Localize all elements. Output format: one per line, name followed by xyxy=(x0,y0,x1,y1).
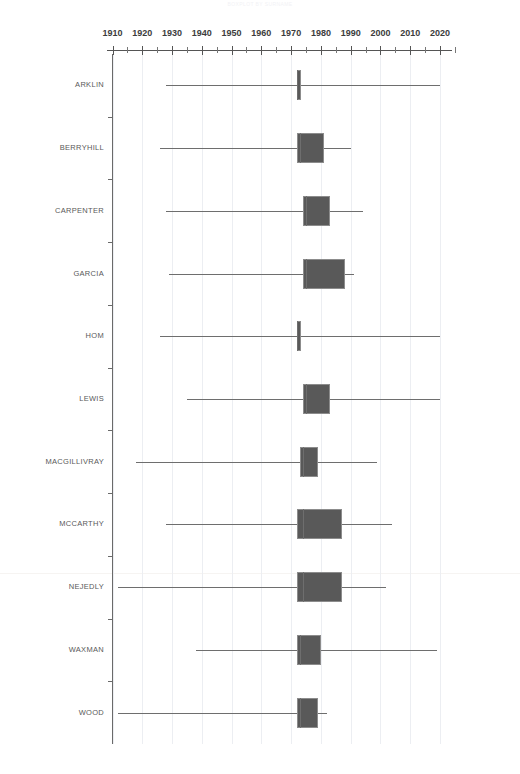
y-tick-7 xyxy=(108,493,113,494)
y-tick-9 xyxy=(108,619,113,620)
box-garcia xyxy=(303,259,345,289)
category-label-waxman: WAXMAN xyxy=(0,645,104,654)
x-minortick-1925 xyxy=(157,47,158,53)
x-tick-1930 xyxy=(172,46,173,55)
x-tick-1990 xyxy=(351,46,352,55)
category-label-lewis: LEWIS xyxy=(0,394,104,403)
y-tick-8 xyxy=(108,556,113,557)
x-minortick-1985 xyxy=(336,47,337,53)
median-wood xyxy=(300,698,301,728)
category-label-arklin: ARKLIN xyxy=(0,80,104,89)
box-carpenter xyxy=(303,196,330,226)
box-lewis xyxy=(303,384,330,414)
x-tick-2000 xyxy=(380,46,381,55)
x-minortick-1955 xyxy=(246,47,247,53)
x-minortick-1965 xyxy=(276,47,277,53)
median-arklin xyxy=(297,70,298,100)
x-minortick-2005 xyxy=(395,47,396,53)
x-minortick-1915 xyxy=(127,47,128,53)
whisker-nejedly xyxy=(118,587,386,588)
x-tick-1950 xyxy=(232,46,233,55)
x-tick-1940 xyxy=(202,46,203,55)
y-tick-1 xyxy=(108,117,113,118)
category-label-nejedly: NEJEDLY xyxy=(0,582,104,591)
y-tick-3 xyxy=(108,242,113,243)
category-label-macgillivray: MACGILLIVRAY xyxy=(0,457,104,466)
gridline-2020 xyxy=(440,54,441,744)
whisker-macgillivray xyxy=(136,462,377,463)
x-tick-1920 xyxy=(142,46,143,55)
median-carpenter xyxy=(306,196,307,226)
plot-area: 1910192019301940195019601970198019902000… xyxy=(0,0,520,774)
whisker-carpenter xyxy=(166,211,363,212)
category-label-hom: HOM xyxy=(0,331,104,340)
x-tick-1960 xyxy=(261,46,262,55)
x-minortick-1935 xyxy=(187,47,188,53)
whisker-mccarthy xyxy=(166,524,392,525)
x-axis-line xyxy=(107,50,452,51)
category-label-carpenter: CARPENTER xyxy=(0,206,104,215)
y-axis-line xyxy=(112,54,113,744)
x-tick-label-2020: 2020 xyxy=(420,28,460,38)
box-berryhill xyxy=(297,133,324,163)
x-minortick-1945 xyxy=(217,47,218,53)
x-tick-1970 xyxy=(291,46,292,55)
category-label-garcia: GARCIA xyxy=(0,269,104,278)
median-lewis xyxy=(306,384,307,414)
median-hom xyxy=(297,321,298,351)
x-minortick-2025 xyxy=(455,47,456,53)
x-tick-2020 xyxy=(440,46,441,55)
y-tick-2 xyxy=(108,179,113,180)
gridline-1920 xyxy=(142,54,143,744)
y-tick-10 xyxy=(108,681,113,682)
whisker-arklin xyxy=(166,85,440,86)
median-waxman xyxy=(300,635,301,665)
x-tick-2010 xyxy=(410,46,411,55)
boxplot-chart: BOXPLOT BY SURNAME 191019201930194019501… xyxy=(0,0,520,774)
x-minortick-2015 xyxy=(425,47,426,53)
whisker-wood xyxy=(118,713,326,714)
median-garcia xyxy=(306,259,307,289)
x-tick-1980 xyxy=(321,46,322,55)
category-label-wood: WOOD xyxy=(0,708,104,717)
category-label-mccarthy: MCCARTHY xyxy=(0,519,104,528)
x-minortick-1975 xyxy=(306,47,307,53)
median-macgillivray xyxy=(303,447,304,477)
category-label-berryhill: BERRYHILL xyxy=(0,143,104,152)
y-tick-6 xyxy=(108,430,113,431)
y-tick-5 xyxy=(108,368,113,369)
median-nejedly xyxy=(303,572,304,602)
median-mccarthy xyxy=(303,509,304,539)
y-tick-4 xyxy=(108,305,113,306)
x-minortick-1995 xyxy=(366,47,367,53)
median-berryhill xyxy=(300,133,301,163)
gridline-1930 xyxy=(172,54,173,744)
